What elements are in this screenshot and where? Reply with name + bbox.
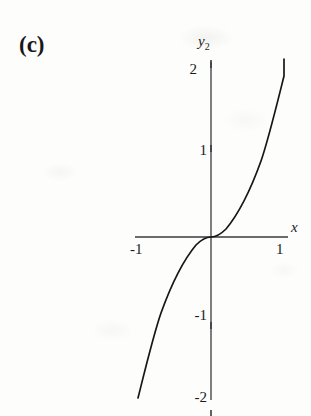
ytick-label-1: 1 <box>200 142 208 158</box>
ytick-label-neg1: -1 <box>195 307 208 323</box>
plot-canvas: y2 x 2 1 -1 -2 -1 1 <box>0 0 311 416</box>
x-axis-label: x <box>290 219 298 235</box>
figure-panel: (c) y2 x 2 1 -1 -2 -1 1 <box>0 0 311 416</box>
y-axis-label-base: y <box>196 33 205 49</box>
y-axis-label-subscript: 2 <box>205 41 210 52</box>
ytick-label-neg2: -2 <box>195 389 208 405</box>
ytick-label-2: 2 <box>190 61 198 77</box>
xtick-label-1: 1 <box>276 241 284 257</box>
y-axis-label: y2 <box>196 33 210 52</box>
xtick-label-neg1: -1 <box>130 241 143 257</box>
